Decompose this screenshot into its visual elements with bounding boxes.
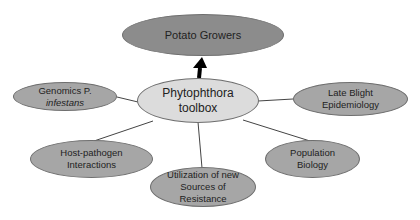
population-label-line2: Biology: [297, 159, 328, 171]
cropped-caption-strip: [0, 210, 420, 220]
host-pathogen-label-line1: Host-pathogen: [60, 147, 122, 159]
host-pathogen-label-line2: Interactions: [67, 159, 116, 171]
edge-host-pathogen: [94, 121, 153, 141]
arrow-shaft: [199, 68, 200, 78]
edge-utilization: [198, 122, 202, 168]
edge-population: [243, 120, 310, 141]
genomics-node: Genomics P. infestans: [13, 82, 117, 111]
late-blight-node: Late Blight Epidemiology: [293, 82, 408, 116]
late-blight-label-line1: Late Blight: [328, 87, 373, 99]
genomics-label-line2: infestans: [46, 97, 84, 109]
genomics-label-line1: Genomics P.: [38, 85, 91, 97]
late-blight-label-line2: Epidemiology: [322, 99, 379, 111]
edge-late-blight: [258, 99, 293, 101]
utilization-label-line3: Resistance: [180, 193, 227, 205]
utilization-label-line2: Sources of: [180, 181, 225, 193]
population-label-line1: Population: [290, 147, 335, 159]
utilization-node: Utilization of new Sources of Resistance: [150, 167, 256, 207]
phytophthora-toolbox-node: Phytophthora toolbox: [137, 78, 259, 123]
population-biology-node: Population Biology: [265, 140, 360, 178]
arrow-head-icon: [193, 57, 207, 68]
host-pathogen-node: Host-pathogen Interactions: [30, 140, 153, 178]
potato-growers-label: Potato Growers: [165, 29, 241, 41]
edge-genomics: [117, 97, 138, 102]
utilization-label-line1: Utilization of new: [167, 169, 239, 181]
center-label-line2: toolbox: [179, 101, 218, 116]
center-label-line1: Phytophthora: [162, 86, 233, 101]
potato-growers-node: Potato Growers: [122, 14, 284, 56]
